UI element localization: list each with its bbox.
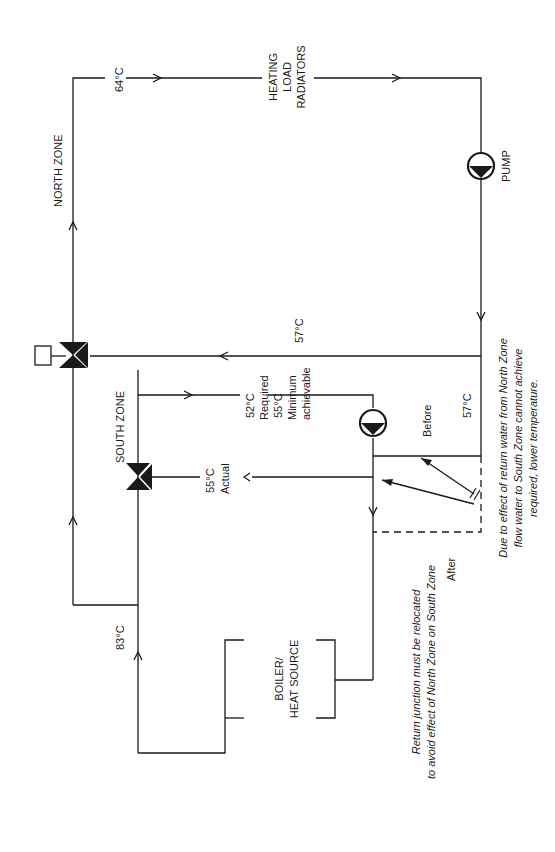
pump-label: PUMP	[500, 150, 512, 182]
after-dashed-line	[373, 456, 481, 532]
temp-57-before-label: 57°C	[461, 393, 473, 418]
main-pump-icon	[468, 153, 494, 179]
required-label: Required	[258, 375, 270, 420]
leader-actual	[382, 480, 474, 504]
achievable-label: achievable	[300, 367, 312, 420]
north-zone-flow-pipe	[73, 78, 105, 605]
effect-note-line-2: flow water to South Zone cannot achieve	[512, 349, 524, 548]
effect-note-line-1: Due to effect of return water from North…	[497, 338, 509, 557]
actual-label: Actual	[219, 463, 231, 494]
temp-55-min-label: 55°C	[272, 393, 284, 418]
after-label: After	[445, 557, 457, 581]
heating-circuit-diagram: NORTH ZONE 64°C HEATING LOAD RADIATORS P…	[0, 0, 555, 852]
boiler-outlet-pipe	[138, 640, 244, 753]
relocate-note-line-1: Return junction must be relocated	[410, 589, 422, 754]
radiator-return-pipe	[314, 78, 481, 152]
south-pump-icon	[360, 410, 386, 436]
boiler-label-2: HEAT SOURCE	[288, 640, 300, 718]
temp-52-label: 52°C	[244, 393, 256, 418]
flow-arrow	[244, 473, 250, 481]
boiler-box-top	[316, 640, 335, 718]
temp-55-actual-label: 55°C	[204, 468, 216, 493]
temp-57-return-label: 57°C	[293, 318, 305, 343]
north-zone-label: NORTH ZONE	[52, 134, 64, 207]
before-label: Before	[421, 405, 433, 437]
relocate-note-line-2: to avoid effect of North Zone on South Z…	[425, 565, 437, 779]
heating-load-label-1: HEATING	[267, 53, 279, 101]
boiler-label-1: BOILER/	[273, 656, 285, 700]
temp-83-label: 83°C	[114, 625, 126, 650]
south-three-way-valve-icon	[126, 463, 152, 490]
north-three-way-valve-icon	[35, 342, 88, 368]
effect-note-line-3: required, lower temperature.	[527, 379, 539, 517]
minimum-label: Minimum	[286, 375, 298, 420]
temp-64-label: 64°C	[113, 67, 125, 92]
heating-load-label-3: RADIATORS	[295, 45, 307, 108]
south-zone-label: SOUTH ZONE	[114, 391, 126, 463]
heating-load-label-2: LOAD	[281, 62, 293, 92]
